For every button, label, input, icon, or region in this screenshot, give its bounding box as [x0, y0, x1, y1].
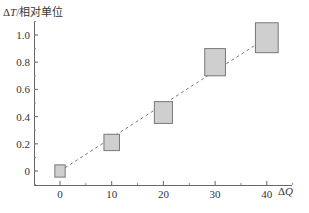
- x-ticks: 010203040: [57, 181, 292, 200]
- svg-text:40: 40: [261, 188, 273, 200]
- svg-text:0.8: 0.8: [16, 56, 30, 68]
- data-boxes: [55, 23, 278, 177]
- chart: 00.20.40.60.81.0 010203040 ΔT/相对单位 ΔQ: [0, 0, 309, 213]
- svg-text:0.2: 0.2: [16, 138, 30, 150]
- svg-text:0.6: 0.6: [16, 83, 30, 95]
- svg-text:30: 30: [210, 188, 222, 200]
- svg-text:0.4: 0.4: [16, 111, 30, 123]
- svg-text:0: 0: [25, 165, 31, 177]
- svg-text:1.0: 1.0: [16, 29, 30, 41]
- svg-text:10: 10: [106, 188, 118, 200]
- svg-text:20: 20: [158, 188, 170, 200]
- y-axis-title: ΔT/相对单位: [3, 5, 63, 18]
- x-axis-title: ΔQ: [278, 185, 293, 197]
- svg-text:0: 0: [57, 188, 63, 200]
